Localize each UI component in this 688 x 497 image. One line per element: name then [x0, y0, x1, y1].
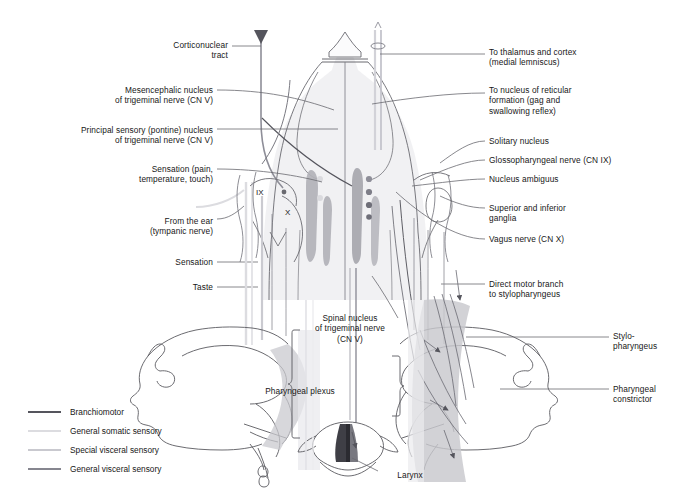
legend: Branchiomotor General somatic sensory Sp… [28, 402, 228, 478]
legend-label-special-visceral-sensory: Special visceral sensory [70, 445, 159, 455]
ganglion-outline-left-1 [237, 175, 243, 262]
label-from-the-ear: From the ear (tympanic nerve) [103, 216, 213, 237]
larynx-aperture [346, 424, 350, 462]
label-to-nucleus-of-reticular-formation: To nucleus of reticular formation (gag a… [489, 85, 674, 116]
muscle-arrow-4 [456, 270, 460, 300]
label-corticonuclear-tract: Corticonuclear tract [128, 40, 228, 61]
right-nose-detail-2 [513, 371, 531, 387]
tract-ring [371, 43, 385, 49]
label-spinal-nucleus-of-trigeminal-nerve: Spinal nucleus of trigeminal nerve (CN V… [290, 313, 410, 344]
legend-label-branchiomotor: Branchiomotor [70, 407, 124, 417]
legend-swatch-special-visceral-sensory [28, 449, 61, 451]
label-mesencephalic-nucleus: Mesencephalic nucleus of trigeminal nerv… [98, 85, 213, 106]
left-palate [196, 327, 288, 344]
label-taste: Taste [133, 282, 213, 292]
right-pharynx-column [408, 300, 424, 482]
label-pharyngeal-constrictor: Pharyngeal constrictor [613, 384, 688, 405]
nucleus-dot-2 [366, 189, 372, 195]
left-nose-detail-2 [157, 371, 175, 387]
nucleus-dot-1 [366, 176, 372, 182]
legend-swatch-general-somatic-sensory [28, 430, 61, 432]
leader-from-ear [217, 206, 244, 219]
ganglion-outline-right-1 [445, 175, 451, 262]
nucleus-dot-3 [366, 202, 372, 208]
legend-item-general-visceral-sensory: General visceral sensory [28, 459, 228, 478]
label-nerve-marker-x: X [285, 208, 305, 218]
label-superior-and-inferior-ganglia: Superior and inferior ganglia [489, 203, 674, 224]
leader-solitary [440, 141, 485, 163]
label-nerve-marker-ix: IX [256, 188, 276, 198]
label-glossopharyngeal-nerve: Glossopharyngeal nerve (CN IX) [489, 155, 687, 165]
diagram-canvas: Corticonuclear tract Mesencephalic nucle… [0, 0, 688, 497]
leader-nucleus-ambiguus [412, 179, 485, 186]
label-solitary-nucleus: Solitary nucleus [489, 136, 674, 146]
label-vagus-nerve: Vagus nerve (CN X) [489, 234, 674, 244]
ganglion-outline-left-2 [253, 172, 258, 258]
label-sensation: Sensation [133, 257, 213, 267]
legend-item-branchiomotor: Branchiomotor [28, 402, 228, 421]
legend-label-general-visceral-sensory: General visceral sensory [70, 464, 161, 474]
label-larynx: Larynx [380, 470, 440, 480]
label-nucleus-ambiguus: Nucleus ambiguus [489, 174, 674, 184]
leader-ganglia [440, 196, 485, 208]
label-pharyngeal-plexus: Pharyngeal plexus [240, 386, 360, 396]
leader-glossopharyngeal [420, 160, 485, 180]
legend-item-special-visceral-sensory: Special visceral sensory [28, 440, 228, 459]
ganglion-oval-right [426, 188, 452, 222]
label-direct-motor-branch: Direct motor branch to stylopharyngeus [489, 279, 674, 300]
label-stylopharyngeus: Stylo- pharyngeus [613, 331, 688, 352]
left-cricoid [258, 448, 268, 478]
label-sensation-pain-temperature-touch: Sensation (pain, temperature, touch) [103, 164, 213, 185]
ix-junction-dot [282, 190, 287, 195]
nucleus-dot-4 [366, 214, 372, 220]
nucleus-dot-left-2 [317, 195, 323, 201]
label-to-thalamus-and-cortex: To thalamus and cortex (medial lemniscus… [489, 47, 674, 68]
legend-label-general-somatic-sensory: General somatic sensory [70, 426, 162, 436]
right-epiglottis [396, 392, 406, 444]
legend-item-general-somatic-sensory: General somatic sensory [28, 421, 228, 440]
midbrain-cap [329, 32, 361, 57]
corticonuclear-triangle [254, 30, 268, 44]
tract-arrow-up [375, 22, 381, 28]
label-principal-sensory-nucleus: Principal sensory (pontine) nucleus of t… [56, 125, 213, 146]
ganglion-outline-right-2 [430, 172, 435, 258]
legend-swatch-general-visceral-sensory [28, 468, 61, 470]
brainstem-group [252, 32, 438, 300]
left-ring-2 [259, 476, 269, 487]
legend-swatch-branchiomotor [28, 411, 61, 413]
